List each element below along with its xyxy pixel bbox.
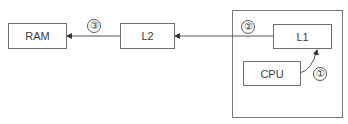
step-2-badge: ②: [241, 20, 255, 34]
cpu-label: CPU: [260, 68, 283, 80]
step-1-badge: ①: [313, 67, 327, 81]
l1-cache-box: L1: [273, 24, 332, 49]
l2-label: L2: [141, 30, 153, 42]
l2-cache-box: L2: [120, 23, 175, 49]
step-3-badge: ③: [87, 19, 101, 33]
cpu-box: CPU: [243, 61, 301, 86]
ram-label: RAM: [25, 30, 49, 42]
ram-box: RAM: [8, 23, 67, 49]
l1-label: L1: [296, 31, 308, 43]
